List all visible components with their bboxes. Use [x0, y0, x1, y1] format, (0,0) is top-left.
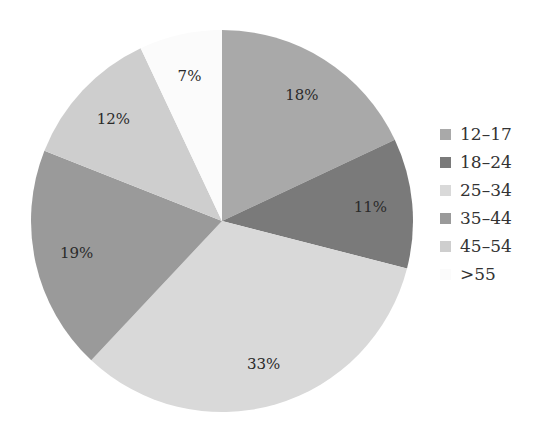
legend-item-12-17: 12–17: [440, 120, 512, 148]
legend-label: 25–34: [460, 180, 512, 200]
legend-label: 35–44: [460, 208, 512, 228]
legend-label: 18–24: [460, 152, 512, 172]
legend: 12–17 18–24 25–34 35–44 45–54 >55: [440, 120, 512, 288]
pie-slices: [31, 30, 413, 412]
legend-swatch: [440, 269, 451, 280]
legend-label: 45–54: [460, 236, 512, 256]
legend-label: 12–17: [460, 124, 512, 144]
legend-item-45-54: 45–54: [440, 232, 512, 260]
legend-swatch: [440, 241, 451, 252]
legend-item-25-34: 25–34: [440, 176, 512, 204]
legend-swatch: [440, 157, 451, 168]
legend-item-18-24: 18–24: [440, 148, 512, 176]
legend-label: >55: [460, 264, 496, 284]
legend-item-35-44: 35–44: [440, 204, 512, 232]
legend-swatch: [440, 129, 451, 140]
slice-percent-label: 11%: [354, 198, 387, 216]
slice-percent-label: 18%: [285, 86, 318, 104]
legend-swatch: [440, 213, 451, 224]
slice-percent-label: 19%: [60, 244, 93, 262]
slice-percent-label: 12%: [97, 110, 130, 128]
legend-swatch: [440, 185, 451, 196]
legend-item-over-55: >55: [440, 260, 512, 288]
slice-percent-label: 33%: [247, 355, 280, 373]
slice-percent-label: 7%: [178, 67, 202, 85]
